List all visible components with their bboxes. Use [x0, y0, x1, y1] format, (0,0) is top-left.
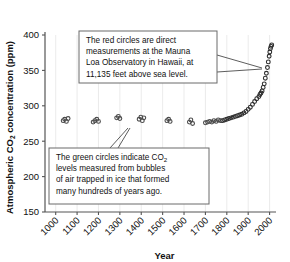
y-tick-label: 400: [23, 29, 39, 40]
y-axis-title-text: Atmospheric CO2 concentration (ppm): [4, 41, 16, 214]
x-tick-label: 1900: [230, 215, 253, 238]
x-tick-label: 1600: [166, 215, 189, 238]
x-tick-label: 1400: [123, 215, 146, 238]
y-tick-label: 200: [23, 171, 39, 182]
chart-canvas: 1502002503003504001000110012001300140015…: [0, 0, 290, 262]
x-tick-label: 2000: [252, 215, 275, 238]
x-tick-label: 1500: [145, 215, 168, 238]
data-series-1: [221, 43, 274, 123]
callout-leader-line: [217, 55, 262, 68]
red-circles-callout-line: The red circles are direct: [86, 36, 177, 45]
data-point: [264, 71, 268, 75]
y-tick-label: 150: [23, 206, 39, 217]
y-tick-label: 350: [23, 65, 39, 76]
green-circles-callout-line: The green circles indicate CO2: [56, 153, 168, 163]
y-axis-title: Atmospheric CO2 concentration (ppm): [4, 41, 16, 214]
y-tick-label: 250: [23, 136, 39, 147]
x-tick-label: 1000: [38, 215, 61, 238]
red-circles-callout-line: Loa Observatory in Hawaii, at: [86, 58, 194, 67]
x-tick-label: 1700: [188, 215, 211, 238]
green-circles-callout-line: of air trapped in ice that formed: [56, 175, 170, 184]
green-circles-callout-line: many hundreds of years ago.: [56, 187, 162, 196]
x-tick-label: 1100: [60, 215, 82, 237]
x-tick-label: 1300: [102, 215, 125, 238]
data-point: [266, 66, 270, 70]
y-tick-label: 300: [23, 100, 39, 111]
data-series-0: [61, 115, 222, 126]
red-circles-callout-line: 11,135 feet above sea level.: [86, 70, 188, 79]
callout-leader-line: [217, 69, 262, 72]
data-point: [263, 76, 267, 80]
data-point: [262, 82, 266, 86]
green-circles-callout-line: levels measured from bubbles: [56, 164, 165, 173]
data-point: [267, 54, 271, 58]
co2-chart: 1502002503003504001000110012001300140015…: [0, 0, 290, 262]
x-tick-label: 1800: [209, 215, 232, 238]
callout-leader-line: [110, 128, 128, 148]
red-circles-callout-line: measurements at the Mauna: [86, 47, 191, 56]
x-axis-title: Year: [154, 250, 174, 261]
x-tick-label: 1200: [81, 215, 104, 238]
